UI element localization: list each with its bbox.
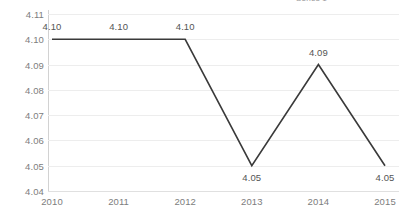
gridline — [48, 191, 399, 192]
y-axis-tick-label: 4.08 — [4, 84, 44, 95]
x-axis-tick-label: 2011 — [108, 196, 129, 207]
data-point-label: 4.10 — [43, 21, 62, 32]
y-axis-tick-label: 4.07 — [4, 110, 44, 121]
data-point-label: 4.10 — [109, 21, 128, 32]
x-axis-tick-label: 2014 — [308, 196, 330, 207]
series-line-group — [48, 14, 399, 191]
plot-area: 4.104.104.104.054.094.05 — [48, 14, 399, 191]
y-axis-tick-label: 4.06 — [4, 135, 44, 146]
x-axis-tick-label: 2012 — [174, 196, 196, 207]
y-axis-tick-label: 4.09 — [4, 59, 44, 70]
y-axis-tick-label: 4.05 — [4, 160, 44, 171]
data-point-label: 4.05 — [242, 172, 261, 183]
x-axis-tick-label: 2013 — [241, 196, 263, 207]
y-axis-tick-label: 4.11 — [4, 9, 44, 20]
x-axis-tick-label: 2010 — [41, 196, 63, 207]
series-line — [52, 39, 385, 165]
x-axis-tick-labels: 201020112012201320142015 — [48, 196, 399, 212]
x-axis-tick-label: 2015 — [374, 196, 396, 207]
data-point-label: 4.10 — [176, 21, 195, 32]
data-point-label: 4.05 — [376, 172, 395, 183]
y-axis-tick-label: 4.04 — [4, 186, 44, 197]
y-axis-tick-labels: 4.114.104.094.084.074.064.054.04 — [0, 14, 44, 191]
clipped-legend-fragment: Series 1 — [296, 0, 327, 5]
line-chart: Series 1 4.114.104.094.084.074.064.054.0… — [0, 0, 399, 218]
y-axis-tick-label: 4.10 — [4, 34, 44, 45]
data-point-label: 4.09 — [309, 47, 328, 58]
